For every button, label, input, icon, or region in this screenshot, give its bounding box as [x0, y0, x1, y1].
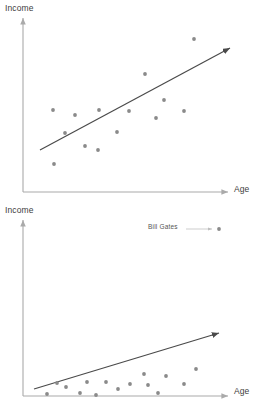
trend-line-bottom: [34, 333, 219, 389]
scatter-plot-figure: Income Age: [0, 0, 259, 405]
data-point: [194, 367, 198, 371]
data-point: [63, 131, 67, 135]
data-point: [96, 148, 100, 152]
data-point: [142, 372, 146, 376]
data-point: [51, 108, 55, 112]
data-point: [164, 374, 168, 378]
chart-top: Income Age: [0, 0, 259, 203]
data-point: [146, 383, 150, 387]
data-point: [45, 392, 49, 396]
data-point: [182, 109, 186, 113]
annotation-marker-dot: [217, 227, 221, 231]
data-point: [97, 108, 101, 112]
chart-top-canvas: [0, 0, 259, 203]
data-point: [83, 144, 87, 148]
data-point: [85, 380, 89, 384]
data-point: [182, 382, 186, 386]
data-point: [154, 116, 158, 120]
data-point: [127, 109, 131, 113]
data-point: [78, 391, 82, 395]
data-point: [94, 393, 98, 397]
data-point: [116, 387, 120, 391]
data-points-bottom: [45, 367, 198, 397]
data-point: [156, 391, 160, 395]
data-point: [143, 72, 147, 76]
data-point: [192, 37, 196, 41]
data-points-top: [51, 37, 196, 166]
trend-line-top: [40, 48, 230, 150]
chart-bottom: Income Age Bill Gates: [0, 202, 259, 405]
data-point: [104, 380, 108, 384]
data-point: [162, 98, 166, 102]
data-point: [64, 385, 68, 389]
data-point: [115, 130, 119, 134]
chart-bottom-canvas: [0, 202, 259, 405]
data-point: [73, 113, 77, 117]
data-point: [55, 381, 59, 385]
data-point: [52, 162, 56, 166]
data-point: [128, 382, 132, 386]
